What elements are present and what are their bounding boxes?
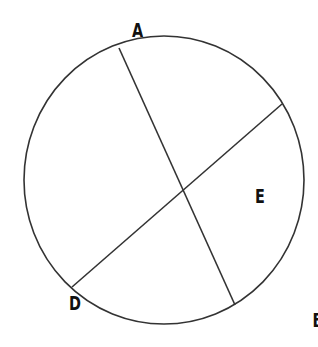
circle-chord-diagram: A C E D B — [0, 0, 318, 347]
circle — [24, 36, 304, 324]
chord-cd — [72, 104, 282, 287]
point-label-a: A — [132, 19, 144, 42]
point-label-b: B — [313, 309, 318, 332]
point-label-d: D — [69, 292, 81, 315]
chord-ab — [119, 48, 235, 305]
point-label-e: E — [255, 185, 265, 208]
